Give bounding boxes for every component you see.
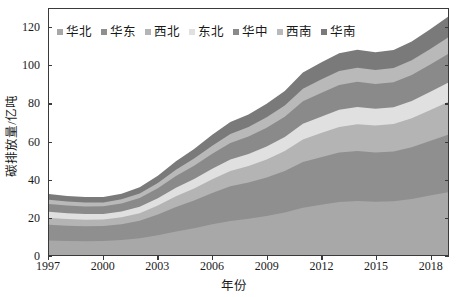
x-axis-tick-mark [267,256,268,260]
y-axis-title: 碳排放量/亿吨 [2,56,18,216]
legend-item[interactable]: 华东 [101,26,136,39]
legend-item[interactable]: 东北 [189,26,224,39]
x-axis-tick-mark [48,256,49,260]
y-axis-tick-mark-right [445,256,449,257]
y-axis-tick-mark [48,256,52,257]
x-axis-tick-label: 2003 [145,259,169,274]
stacked-area-chart: 碳排放量/亿吨 02040608010012019972000200320062… [0,0,468,297]
legend-swatch-icon [189,29,195,35]
legend-swatch-icon [277,29,283,35]
x-axis-tick-mark [212,256,213,260]
legend: 华北华东西北东北华中西南华南 [57,26,356,39]
legend-label: 华中 [242,26,268,39]
x-axis-tick-label: 2015 [364,259,388,274]
legend-label: 华北 [66,26,92,39]
y-axis-tick-label: 0 [0,249,40,264]
legend-label: 华南 [330,26,356,39]
plot-area [48,8,449,256]
x-axis-title: 年份 [0,275,468,294]
x-axis-tick-label: 2012 [309,259,333,274]
x-axis-tick-label: 2006 [200,259,224,274]
x-axis-tick-label: 2000 [91,259,115,274]
legend-item[interactable]: 华南 [321,26,356,39]
legend-label: 东北 [198,26,224,39]
x-axis-tick-mark [321,256,322,260]
y-axis-title-text: 碳排放量/亿吨 [1,95,20,176]
x-axis-tick-label: 1997 [36,259,60,274]
x-axis-tick-mark [376,256,377,260]
legend-swatch-icon [321,29,327,35]
legend-label: 西北 [154,26,180,39]
x-axis-tick-mark [103,256,104,260]
legend-item[interactable]: 华北 [57,26,92,39]
legend-swatch-icon [145,29,151,35]
legend-item[interactable]: 西北 [145,26,180,39]
y-axis-tick-label: 120 [0,20,40,35]
legend-swatch-icon [57,29,63,35]
legend-swatch-icon [233,29,239,35]
legend-swatch-icon [101,29,107,35]
legend-item[interactable]: 华中 [233,26,268,39]
legend-label: 华东 [110,26,136,39]
x-axis-tick-label: 2018 [419,259,443,274]
legend-label: 西南 [286,26,312,39]
x-axis-tick-label: 2009 [255,259,279,274]
legend-item[interactable]: 西南 [277,26,312,39]
stacked-areas [49,9,448,255]
x-axis-tick-mark [431,256,432,260]
x-axis-tick-mark [157,256,158,260]
